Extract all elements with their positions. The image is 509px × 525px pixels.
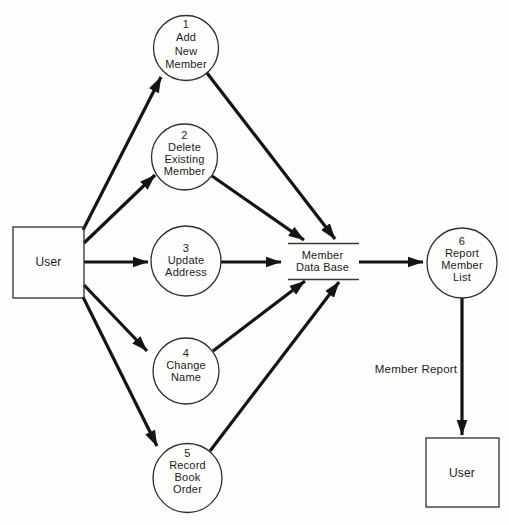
flow-user-to-record-book-order xyxy=(83,297,157,446)
process-2-label: Delete xyxy=(168,141,201,153)
flow-change-name-to-store xyxy=(213,281,305,351)
shapes-group xyxy=(13,16,499,513)
process-1-label: Add xyxy=(176,31,196,43)
process-2-label: Member xyxy=(164,165,206,177)
process-6-number: 6 xyxy=(459,235,465,247)
process-3-number: 3 xyxy=(183,242,189,254)
process-3-label: Address xyxy=(165,266,207,278)
process-6-label: Report xyxy=(445,247,479,259)
process-2-label: Existing xyxy=(164,153,204,165)
flow-record-book-order-to-store xyxy=(210,282,339,451)
process-4-label: Name xyxy=(171,371,201,383)
process-6-label: List xyxy=(453,271,471,283)
process-6-label: Member xyxy=(441,259,483,271)
process-1-number: 1 xyxy=(183,18,189,30)
process-5-label: Record xyxy=(169,459,206,471)
dfd-canvas: 1 Add New Member 2 Delete Existing Membe… xyxy=(0,0,509,525)
flow-delete-member-to-store xyxy=(212,176,304,240)
flow-member-report-label: Member Report xyxy=(375,363,458,375)
flows-group xyxy=(83,73,462,451)
process-1-label: New xyxy=(175,45,198,57)
process-1-label: Member xyxy=(165,58,207,70)
process-5-label: Book xyxy=(175,471,201,483)
process-3-label: Update xyxy=(168,254,205,266)
data-store-label: Member xyxy=(302,249,344,261)
labels-group: 1 Add New Member 2 Delete Existing Membe… xyxy=(35,18,482,495)
process-5-label: Order xyxy=(173,483,202,495)
data-store-label: Data Base xyxy=(296,261,349,273)
entity-user-sink-label: User xyxy=(449,466,475,480)
process-2-number: 2 xyxy=(181,129,187,141)
entity-user-source-label: User xyxy=(35,255,61,269)
flow-add-new-member-to-store xyxy=(207,73,335,239)
process-4-label: Change xyxy=(166,359,206,371)
process-5-number: 5 xyxy=(184,447,190,459)
process-4-number: 4 xyxy=(183,347,189,359)
